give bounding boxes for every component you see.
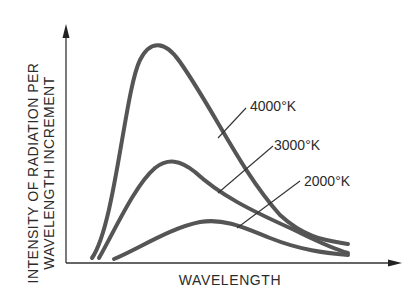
x-axis-label: WAVELENGTH: [179, 272, 281, 288]
label-4000k: 4000°K: [250, 98, 297, 114]
callout-line-4000k: [218, 108, 246, 138]
y-axis-label-line1: INTENSITY OF RADIATION PER: [25, 63, 41, 284]
x-axis-arrow-icon: [388, 260, 402, 267]
label-2000k: 2000°K: [304, 173, 351, 189]
callout-line-3000k: [218, 146, 273, 193]
y-axis-arrow-icon: [63, 24, 70, 38]
y-axis-label-line2: WAVELENGTH INCREMENT: [41, 76, 57, 270]
label-3000k: 3000°K: [274, 137, 321, 153]
blackbody-radiation-chart: 4000°K 3000°K 2000°K WAVELENGTH INTENSIT…: [0, 0, 420, 305]
callout-line-2000k: [237, 181, 300, 228]
